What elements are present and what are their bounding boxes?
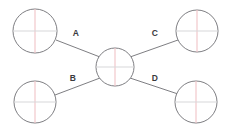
edge-b-line <box>55 78 100 95</box>
top-left-node[interactable] <box>13 9 57 53</box>
edge-a-label: A <box>73 28 79 38</box>
bottom-right-node[interactable] <box>175 81 217 123</box>
edge-a-line <box>56 40 100 57</box>
diagram-canvas: A B C D <box>0 0 229 135</box>
bottom-left-node[interactable] <box>14 81 56 123</box>
top-right-node[interactable] <box>176 10 218 52</box>
edge-c-line <box>130 40 178 57</box>
edge-c-label: C <box>152 28 158 38</box>
edge-d-label: D <box>152 73 158 83</box>
center-node[interactable] <box>96 48 134 86</box>
node-diagram: A B C D <box>0 0 229 135</box>
edge-b-label: B <box>70 73 76 83</box>
